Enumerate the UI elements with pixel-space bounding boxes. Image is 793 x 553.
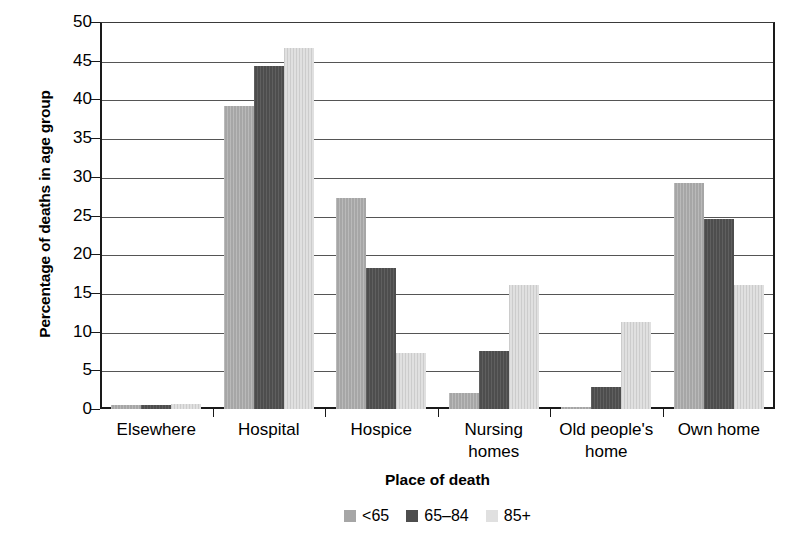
y-axis-tick-mark [91,254,100,255]
x-axis-tick-label-line: Hospital [213,419,326,441]
bar [284,48,314,409]
bar [224,106,254,409]
x-axis-tick-label-line: Hospice [325,419,438,441]
bar [111,405,141,409]
y-axis-tick-mark [91,22,100,23]
y-axis-tick-label: 35 [52,129,92,146]
y-axis-tick-mark [91,216,100,217]
y-axis-tick-mark [91,138,100,139]
x-axis-tick-mark [438,409,439,417]
legend: <6565–8485+ [100,508,775,524]
y-axis-tick-mark [91,61,100,62]
y-axis-tick-label: 25 [52,207,92,224]
legend-item: 85+ [486,508,531,524]
x-axis-tick-label: Elsewhere [100,419,213,463]
y-axis-tick-mark [91,409,100,410]
y-axis-tick-label: 10 [52,323,92,340]
y-axis-tick-label: 5 [52,361,92,378]
x-axis-tick-labels: ElsewhereHospitalHospiceNursinghomesOld … [100,419,775,463]
bar-groups [100,22,775,409]
x-axis-tick-label-line: Own home [663,419,776,441]
y-axis-tick-mark [91,370,100,371]
legend-item: <65 [344,508,389,524]
x-axis-tick-label: Old people'shome [550,419,663,463]
x-axis-tick-label-line: home [550,441,663,463]
y-axis-tick-mark [91,99,100,100]
y-axis-tick-label: 50 [52,13,92,30]
bar [591,387,621,409]
bar-chart: Percentage of deaths in age group 051015… [0,0,793,553]
y-axis-tick-mark [91,177,100,178]
bar [336,198,366,409]
y-axis-tick-label: 30 [52,168,92,185]
bar [396,353,426,410]
bar [254,66,284,409]
y-axis-tick-label: 20 [52,245,92,262]
x-axis-tick-mark [663,409,664,417]
x-axis-tick-mark [213,409,214,417]
x-axis-tick-mark [550,409,551,417]
bar-group [325,22,438,409]
x-axis-tick-label: Hospital [213,419,326,463]
bar [734,285,764,409]
x-axis-title: Place of death [100,471,775,489]
bar-group [550,22,663,409]
bar [621,322,651,409]
legend-label: 65–84 [424,508,469,524]
x-axis-tick-label-line: homes [438,441,551,463]
bar [561,407,591,409]
x-axis-tick-label: Nursinghomes [438,419,551,463]
bar [509,285,539,409]
bar-group [663,22,776,409]
x-axis-tick-label-line: Old people's [550,419,663,441]
bar-group [438,22,551,409]
bar-group [100,22,213,409]
x-axis-tick-label: Hospice [325,419,438,463]
bar [479,351,509,409]
y-axis-tick-mark [91,293,100,294]
bar [171,404,201,409]
legend-label: <65 [362,508,389,524]
bar [366,268,396,409]
y-axis-tick-label: 0 [52,400,92,417]
legend-swatch-icon [486,510,498,522]
legend-item: 65–84 [406,508,469,524]
x-axis-tick-label-line: Nursing [438,419,551,441]
bar [674,183,704,409]
bar [449,393,479,409]
y-axis-tick-label: 15 [52,284,92,301]
bar [704,219,734,409]
bar [141,405,171,409]
y-axis-tick-label: 45 [52,52,92,69]
x-axis-tick-mark [325,409,326,417]
bar-group [213,22,326,409]
legend-swatch-icon [344,510,356,522]
y-axis-tick-label: 40 [52,90,92,107]
x-axis-tick-label-line: Elsewhere [100,419,213,441]
legend-swatch-icon [406,510,418,522]
legend-label: 85+ [504,508,531,524]
y-axis-tick-mark [91,332,100,333]
x-axis-tick-label: Own home [663,419,776,463]
